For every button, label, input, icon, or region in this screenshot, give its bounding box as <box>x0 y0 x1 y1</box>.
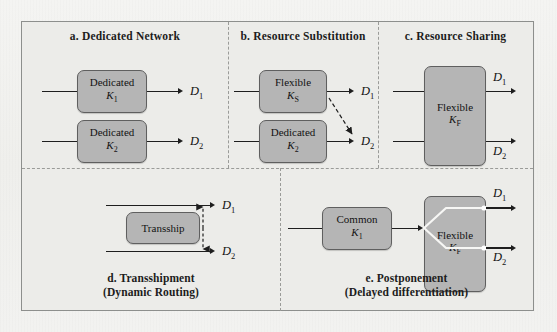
panel-e-caption-line2: (Delayed differentiation) <box>345 286 468 298</box>
panel-e-demand-label-1: D1 <box>493 186 506 203</box>
figure-root: a. Dedicated Network Dedicated K1 D1 Ded… <box>0 0 557 332</box>
panel-e-arrow-2 <box>511 245 516 251</box>
figure-frame: a. Dedicated Network Dedicated K1 D1 Ded… <box>21 21 534 311</box>
panel-e-caption-line1: e. Postponement <box>366 272 448 284</box>
panel-e-output-line-2 <box>486 247 513 248</box>
panel-e-fork <box>22 22 533 311</box>
panel-e-arrow-1 <box>511 205 516 211</box>
panel-e-caption: e. Postponement (Delayed differentiation… <box>280 271 533 299</box>
panel-e-demand-label-2: D2 <box>493 250 506 267</box>
panel-e-output-line-1 <box>486 207 513 208</box>
